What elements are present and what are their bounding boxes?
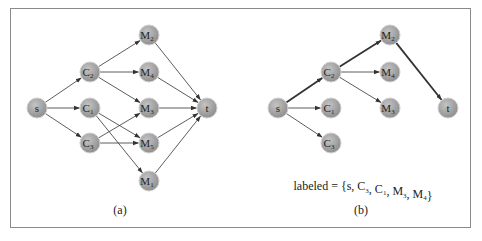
edge-M5-t <box>158 113 198 137</box>
node-M3: M3 <box>380 98 400 118</box>
edge-M2-t <box>396 43 441 100</box>
node-label: t <box>446 102 449 114</box>
edge-s-C2 <box>286 78 322 102</box>
edge-M4-t <box>157 77 198 102</box>
node-M5: M5 <box>139 133 159 153</box>
node-M3: M3 <box>139 98 159 118</box>
node-t: t <box>438 98 458 118</box>
node-C2: C2 <box>80 62 100 82</box>
edge-C2-M2 <box>339 41 381 67</box>
node-C1: C1 <box>80 98 100 118</box>
node-M4: M4 <box>380 62 400 82</box>
panel-caption-b: (b) <box>354 203 368 217</box>
edge-s-C3 <box>286 114 322 138</box>
panel-b: sC2C1C3M2M4M3t(b)labeled = {s, C3, C1, M… <box>268 25 458 217</box>
node-C1: C1 <box>321 98 341 118</box>
edge-C2-M3 <box>340 77 382 102</box>
node-M4: M4 <box>139 62 159 82</box>
node-C3: C3 <box>321 133 341 153</box>
node-t: t <box>197 98 217 118</box>
node-label: s <box>276 102 280 114</box>
edge-C2-M3 <box>99 77 141 102</box>
labeled-set-annotation: labeled = {s, C3, C1, M3, M4} <box>294 179 433 203</box>
edge-s-C2 <box>45 78 81 102</box>
node-C3: C3 <box>80 133 100 153</box>
figure-caption-cropped <box>12 236 72 241</box>
node-M1: M1 <box>139 171 159 191</box>
edge-M1-t <box>155 116 200 173</box>
node-M2: M2 <box>380 25 400 45</box>
edge-M2-t <box>155 43 200 100</box>
panel-a: sC2C1C3M2M4M3M5M1t(a) <box>27 25 217 217</box>
edge-s-C3 <box>45 114 81 138</box>
panel-caption-a: (a) <box>113 203 126 217</box>
node-M2: M2 <box>139 25 159 45</box>
edge-C2-M2 <box>98 41 140 67</box>
node-s: s <box>268 98 288 118</box>
node-label: s <box>35 102 39 114</box>
node-label: t <box>205 102 208 114</box>
flow-network-diagram: sC2C1C3M2M4M3M5M1t(a) sC2C1C3M2M4M3t(b)l… <box>0 0 482 241</box>
node-C2: C2 <box>321 62 341 82</box>
node-s: s <box>27 98 47 118</box>
edge-C1-M1 <box>96 116 142 173</box>
